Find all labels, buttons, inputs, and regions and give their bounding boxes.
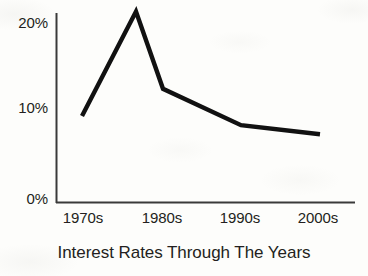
y-tick-label-20: 20% [6, 15, 48, 30]
x-tick-label-1970s: 1970s [63, 210, 103, 225]
data-series-line [82, 12, 320, 135]
chart-plot-area [0, 0, 368, 276]
x-tick-label-1980s: 1980s [142, 210, 182, 225]
y-tick-label-10: 10% [6, 100, 48, 115]
chart-container: 20% 10% 0% 1970s 1980s 1990s 2000s Inter… [0, 0, 368, 276]
chart-title: Interest Rates Through The Years [0, 243, 368, 263]
x-tick-label-2000s: 2000s [298, 210, 338, 225]
y-tick-label-0: 0% [6, 191, 48, 206]
x-tick-label-1990s: 1990s [220, 210, 260, 225]
